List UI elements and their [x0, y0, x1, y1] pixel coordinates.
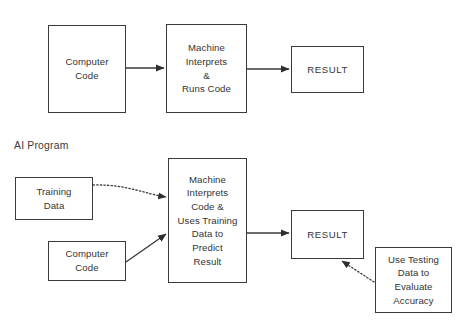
dotted-arrow-testing-data-to-result — [342, 261, 374, 282]
computer-code-box-bottom[interactable]: Computer Code — [48, 241, 126, 281]
result-box-bottom[interactable]: RESULT — [291, 210, 364, 259]
diagram-canvas: AI Program Computer Code Machine Interpr… — [0, 0, 468, 329]
result-box-top[interactable]: RESULT — [291, 46, 364, 93]
arrow-computer-code-to-machine-bottom — [126, 234, 166, 262]
section-label-ai-program: AI Program — [14, 140, 69, 151]
dotted-arrow-training-data-to-machine — [93, 185, 166, 197]
training-data-box[interactable]: Training Data — [15, 177, 93, 220]
use-testing-data-box[interactable]: Use Testing Data to Evaluate Accuracy — [375, 247, 452, 313]
computer-code-box-top[interactable]: Computer Code — [48, 25, 126, 113]
machine-predict-result-box[interactable]: Machine Interprets Code & Uses Training … — [168, 158, 247, 283]
machine-interprets-runs-code-box[interactable]: Machine Interprets & Runs Code — [166, 24, 247, 113]
